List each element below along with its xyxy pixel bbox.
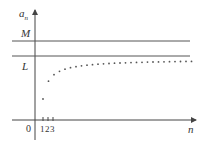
limit-label: L bbox=[21, 60, 28, 72]
sequence-point bbox=[103, 63, 105, 65]
sequence-point bbox=[141, 61, 143, 63]
sequence-point bbox=[191, 61, 193, 63]
x-axis-label: n bbox=[188, 123, 194, 135]
origin-label: 0 bbox=[26, 123, 31, 134]
sequence-points bbox=[42, 61, 192, 100]
sequence-point bbox=[75, 66, 77, 68]
sequence-point bbox=[136, 62, 138, 64]
sequence-point bbox=[48, 80, 50, 82]
sequence-point bbox=[185, 61, 187, 63]
x-tick-label-3: 3 bbox=[50, 124, 55, 134]
sequence-point bbox=[174, 61, 176, 63]
sequence-point bbox=[147, 61, 149, 63]
y-axis-label: an bbox=[19, 7, 29, 22]
sequence-diagram: an M L 0 1 2 3 n bbox=[0, 0, 202, 146]
sequence-point bbox=[158, 61, 160, 63]
sequence-point bbox=[42, 98, 44, 100]
sequence-point bbox=[53, 74, 55, 76]
sequence-point bbox=[92, 64, 94, 66]
upper-bound-label: M bbox=[20, 27, 31, 39]
sequence-point bbox=[81, 65, 83, 67]
sequence-point bbox=[125, 62, 127, 64]
sequence-point bbox=[64, 68, 66, 70]
sequence-point bbox=[180, 61, 182, 63]
x-tick-label-2: 2 bbox=[45, 124, 50, 134]
sequence-point bbox=[130, 62, 132, 64]
sequence-point bbox=[163, 61, 165, 63]
sequence-point bbox=[119, 62, 121, 64]
sequence-point bbox=[108, 63, 110, 65]
sequence-point bbox=[86, 64, 88, 66]
x-tick-label-1: 1 bbox=[40, 124, 45, 134]
sequence-point bbox=[59, 70, 61, 72]
sequence-point bbox=[169, 61, 171, 63]
sequence-point bbox=[152, 61, 154, 63]
sequence-point bbox=[97, 63, 99, 65]
sequence-point bbox=[114, 62, 116, 64]
sequence-point bbox=[70, 67, 72, 69]
